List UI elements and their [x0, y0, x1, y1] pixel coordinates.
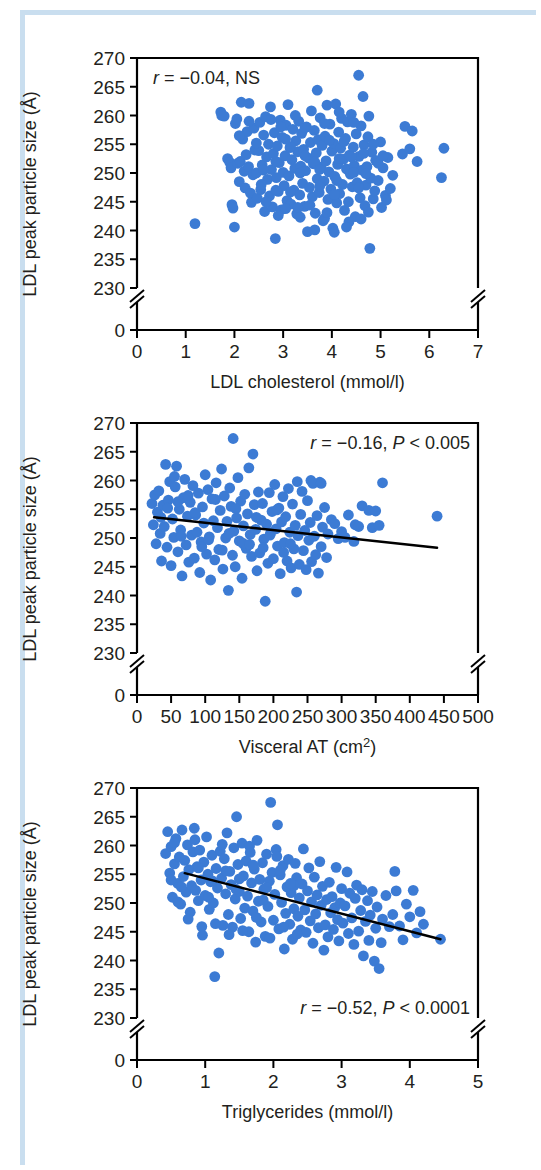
data-point — [303, 863, 314, 874]
data-point — [391, 886, 402, 897]
data-point — [265, 797, 276, 808]
data-point — [173, 496, 184, 507]
data-point — [275, 122, 286, 133]
x-tick-label: 4 — [327, 341, 338, 362]
data-point — [251, 138, 262, 149]
data-point — [363, 935, 374, 946]
data-point — [381, 195, 392, 206]
data-point — [295, 509, 306, 520]
data-point — [321, 552, 332, 563]
data-point — [231, 811, 242, 822]
data-point — [412, 156, 423, 167]
data-point — [272, 819, 283, 830]
y-axis-ticks: 2302352402452502552602652700 — [93, 778, 137, 1071]
data-point — [353, 70, 364, 81]
data-point — [183, 490, 194, 501]
data-point — [219, 853, 230, 864]
y-tick-label: 235 — [93, 614, 125, 635]
data-point — [169, 837, 180, 848]
data-point — [205, 575, 216, 586]
data-point — [324, 877, 335, 888]
y-tick-label: 260 — [93, 106, 125, 127]
data-point — [300, 122, 311, 133]
data-point — [305, 200, 316, 211]
data-point — [378, 150, 389, 161]
data-point — [319, 502, 330, 513]
data-point — [374, 963, 385, 974]
data-point — [253, 487, 264, 498]
data-point — [201, 831, 212, 842]
x-tick-label: 1 — [180, 341, 191, 362]
correlation-annotation: r = −0.04, NS — [153, 68, 260, 88]
x-tick-label: 5 — [375, 341, 386, 362]
data-point — [329, 189, 340, 200]
x-tick-label: 200 — [258, 706, 290, 727]
y-tick-label: 240 — [93, 221, 125, 242]
data-point — [189, 553, 200, 564]
data-point — [306, 475, 317, 486]
data-point — [280, 511, 291, 522]
y-tick-label: 235 — [93, 249, 125, 270]
data-point — [294, 189, 305, 200]
data-point — [376, 937, 387, 948]
data-point — [216, 464, 227, 475]
data-point — [329, 227, 340, 238]
y-tick-label: 265 — [93, 807, 125, 828]
data-point — [183, 914, 194, 925]
y-tick-label: 240 — [93, 951, 125, 972]
scatter-points — [147, 433, 443, 607]
data-point — [260, 596, 271, 607]
y-tick-label-zero: 0 — [114, 320, 125, 341]
data-point — [270, 233, 281, 244]
y-axis-title: LDL peak particle size (Å) — [20, 456, 40, 661]
data-point — [234, 873, 245, 884]
data-point — [290, 858, 301, 869]
data-point — [261, 196, 272, 207]
data-point — [190, 834, 201, 845]
x-tick-label: 1 — [200, 1071, 211, 1092]
data-point — [297, 486, 308, 497]
x-tick-label: 250 — [292, 706, 324, 727]
data-point — [266, 114, 277, 125]
y-tick-label: 230 — [93, 278, 125, 299]
data-point — [203, 892, 214, 903]
data-point — [357, 884, 368, 895]
x-tick-label: 350 — [360, 706, 392, 727]
data-point — [194, 845, 205, 856]
data-point — [348, 142, 359, 153]
x-tick-label: 4 — [405, 1071, 416, 1092]
data-point — [324, 135, 335, 146]
data-point — [248, 860, 259, 871]
data-point — [223, 585, 234, 596]
data-point — [346, 152, 357, 163]
panel-1-svg: 230235240245250255260265270001234567LDL … — [0, 0, 541, 395]
data-point — [285, 538, 296, 549]
y-tick-label: 255 — [93, 864, 125, 885]
x-axis-ticks: 050100150200250300350400450500 — [132, 695, 494, 727]
scatter-panel-triglycerides: 2302352402452502552602652700012345Trigly… — [0, 730, 541, 1130]
data-point — [258, 542, 269, 553]
data-point — [190, 507, 201, 518]
data-point — [169, 471, 180, 482]
data-point — [189, 823, 200, 834]
y-tick-label: 245 — [93, 922, 125, 943]
data-point — [162, 503, 173, 514]
data-point — [219, 111, 230, 122]
y-tick-label: 230 — [93, 643, 125, 664]
data-point — [295, 168, 306, 179]
data-point — [278, 922, 289, 933]
data-point — [377, 477, 388, 488]
data-point — [271, 504, 282, 515]
data-point — [248, 449, 259, 460]
data-point — [348, 117, 359, 128]
data-point — [176, 882, 187, 893]
data-point — [209, 971, 220, 982]
data-point — [192, 527, 203, 538]
x-tick-label: 300 — [326, 706, 358, 727]
x-tick-label: 7 — [473, 341, 484, 362]
data-point — [309, 531, 320, 542]
x-axis-ticks: 012345 — [132, 1060, 484, 1092]
data-point — [312, 85, 323, 96]
data-point — [283, 99, 294, 110]
x-tick-label: 0 — [132, 1071, 143, 1092]
